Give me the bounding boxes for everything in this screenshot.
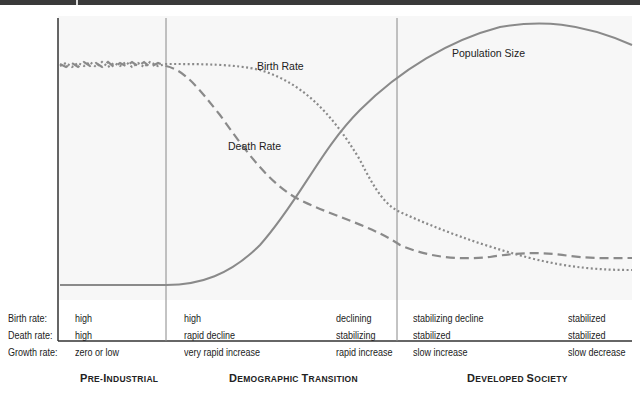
transition-early-growth: very rapid increase xyxy=(184,347,260,358)
stage-label-part: EMOGRAPHIC xyxy=(237,374,301,384)
stage-label-part: RE- xyxy=(88,374,104,384)
birth-rate-curve xyxy=(60,62,632,270)
developed-late-growth: slow decrease xyxy=(568,347,626,358)
stage-label-part: T xyxy=(301,372,308,384)
developed-late-birth: stabilized xyxy=(568,313,606,324)
row-label-growth-rate: Growth rate: xyxy=(8,347,58,358)
birth-rate-label: Birth Rate xyxy=(257,60,304,72)
death-rate-label: Death Rate xyxy=(228,140,281,152)
transition-late-birth: declining xyxy=(336,313,372,324)
stage-label-pre-industrial: PRE-INDUSTRIAL xyxy=(80,372,158,384)
stage-label-developed-society: DEVELOPED SOCIETY xyxy=(467,372,568,384)
transition-early-death: rapid decline xyxy=(184,330,235,341)
developed-late-death: stabilized xyxy=(568,330,606,341)
stage-label-part: P xyxy=(80,372,88,384)
stage-label-part: RANSITION xyxy=(309,374,358,384)
row-label-birth-rate: Birth rate: xyxy=(8,313,47,324)
transition-late-death: stabilizing xyxy=(336,330,376,341)
stage-label-part: D xyxy=(229,372,237,384)
transition-early-birth: high xyxy=(184,313,201,324)
stage-label-part: NDUSTRIAL xyxy=(107,374,159,384)
demographic-transition-chart: Birth Rate Death Rate Population Size xyxy=(0,0,643,395)
pre-industrial-birth: high xyxy=(75,313,92,324)
developed-early-death: stabilized xyxy=(413,330,451,341)
developed-early-birth: stabilizing decline xyxy=(413,313,484,324)
row-label-death-rate: Death rate: xyxy=(8,330,53,341)
developed-early-growth: slow increase xyxy=(413,347,468,358)
stage-label-part: EVELOPED xyxy=(475,374,526,384)
pre-industrial-death: high xyxy=(75,330,92,341)
transition-late-growth: rapid increase xyxy=(336,347,393,358)
pre-industrial-growth: zero or low xyxy=(75,347,119,358)
stage-label-part: D xyxy=(467,372,475,384)
death-rate-curve xyxy=(60,62,632,258)
stage-label-demographic-transition: DEMOGRAPHIC TRANSITION xyxy=(229,372,358,384)
stage-label-part: OCIETY xyxy=(534,374,567,384)
population-size-label: Population Size xyxy=(452,47,525,59)
